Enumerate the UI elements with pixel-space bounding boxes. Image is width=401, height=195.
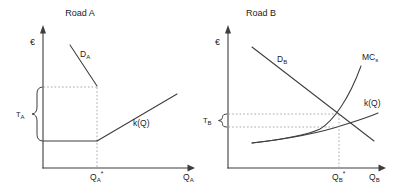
panel-road-a: Road A € DA k(Q) TA QA* QA [16, 8, 195, 183]
panel-a-euro-label: € [30, 37, 35, 47]
panel-a-q-star-sup: * [101, 170, 104, 177]
panel-b-euro-label: € [215, 37, 220, 47]
figure-canvas: Road A € DA k(Q) TA QA* QA [0, 0, 401, 195]
panel-b-toll-brace [219, 114, 228, 127]
panel-a-title: Road A [65, 8, 95, 18]
panel-b-cost-label: k(Q) [364, 98, 381, 108]
panel-a-demand-label-sub: A [86, 54, 90, 60]
panel-b-x-axis-label: QB [369, 172, 380, 183]
panel-b-q-star-sup: * [343, 170, 346, 177]
panel-a-cost-label: k(Q) [133, 118, 150, 128]
panel-b-y-axis-arrow-icon [225, 25, 231, 34]
panel-a-toll-brace [32, 87, 43, 141]
panel-a-x-axis-arrow-icon [188, 165, 196, 172]
panel-b-x-axis-label-sub: B [376, 177, 380, 183]
panel-a-y-axis-arrow-icon [40, 25, 46, 34]
panel-a-demand-label: DA [80, 49, 90, 60]
panel-a-q-star-label: QA* [90, 170, 104, 183]
panel-b-toll-label-sub: B [208, 120, 212, 126]
panel-b-demand-label: DB [277, 54, 287, 65]
panel-b-cost-curve [252, 113, 378, 143]
panel-b-marginal-cost-label: MCs [362, 52, 378, 63]
panel-b-demand-label-sub: B [283, 59, 287, 65]
panel-road-b: Road B € DB k(Q) MCs TB QB* [203, 8, 386, 183]
panel-a-x-axis-label: QA [183, 172, 194, 183]
panel-b-q-star-sub: B [339, 177, 343, 183]
panel-b-title: Road B [246, 8, 276, 18]
panel-b-q-star-label: QB* [332, 170, 346, 183]
panel-a-x-axis-label-sub: A [190, 177, 194, 183]
road-pricing-figure: Road A € DA k(Q) TA QA* QA [0, 0, 401, 195]
panel-a-toll-label: TA [16, 110, 25, 120]
panel-b-x-axis-arrow-icon [379, 165, 387, 172]
panel-b-toll-label: TB [203, 116, 212, 126]
panel-b-mc-label-main: MC [362, 52, 375, 62]
panel-a-q-star-sub: A [97, 177, 101, 183]
panel-b-mc-label-sub: s [375, 57, 378, 63]
panel-b-marginal-cost-curve [252, 66, 361, 143]
panel-a-toll-label-sub: A [21, 114, 25, 120]
